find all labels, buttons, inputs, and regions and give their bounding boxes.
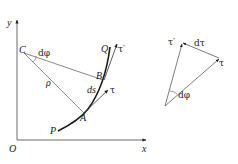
tau-label-right: τ: [219, 58, 224, 68]
tau-prime-label-left: τ′: [118, 44, 125, 54]
ds-label: ds: [87, 84, 96, 95]
point-B-label: B: [96, 70, 102, 81]
dphi-arc-right: [170, 91, 177, 94]
point-P-label: P: [49, 125, 56, 136]
tau-label-left: τ: [110, 85, 115, 95]
point-Q-label: Q: [101, 43, 109, 54]
radius-CB: [24, 53, 103, 80]
y-axis-label: y: [6, 17, 12, 28]
dphi-label-right: dφ: [178, 90, 190, 100]
rho-label: ρ: [45, 77, 51, 88]
dtau-label: dτ: [194, 38, 205, 48]
vector-triangle: [165, 43, 219, 106]
tau-prime-label-right: τ′: [168, 37, 175, 47]
x-axis-label: x: [141, 143, 147, 154]
curvature-diagram: y x O C dφ ρ B ds A P Q τ τ′ τ′ dτ τ dφ: [0, 0, 238, 164]
vector-tau: [165, 59, 219, 106]
point-C-label: C: [19, 44, 26, 55]
dphi-label-left: dφ: [38, 48, 50, 58]
point-A-label: A: [79, 112, 87, 123]
origin-label: O: [9, 143, 16, 154]
